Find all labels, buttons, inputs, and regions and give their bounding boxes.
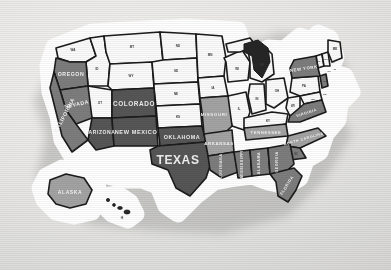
map-image: OREGON NEVADA CALIFORNIA COLORADO ARIZON… [0, 0, 391, 270]
abbr-de: DE [323, 93, 327, 96]
label-texas: TEXAS [156, 153, 199, 167]
label-colorado: COLORADO [113, 100, 155, 107]
label-arkansas: ARKANSAS [204, 141, 234, 146]
label-georgia: GEORGIA [275, 151, 279, 172]
sticker-body: OREGON NEVADA CALIFORNIA COLORADO ARIZON… [40, 27, 352, 220]
label-oregon: OREGON [58, 71, 85, 77]
label-louisiana: LOUISIANA [219, 153, 223, 178]
label-oklahoma: OKLAHOMA [164, 134, 201, 140]
abbr-il: IL [238, 107, 241, 111]
abbr-me: ME [333, 47, 338, 51]
abbr-ks: KS [176, 115, 180, 119]
abbr-wy: WY [129, 74, 134, 78]
abbr-vt: VT [317, 60, 321, 63]
abbr-ct: CT [327, 70, 331, 73]
us-map-sticker: OREGON NEVADA CALIFORNIA COLORADO ARIZON… [0, 0, 391, 270]
abbr-oh: OH [275, 89, 280, 93]
state-maine [328, 40, 342, 62]
label-missouri: MISSOURI [201, 112, 228, 117]
abbr-wv: WV [291, 104, 295, 108]
abbr-ma: MA [331, 61, 335, 64]
abbr-in: IN [256, 97, 259, 101]
label-new-mexico: NEW MEXICO [115, 129, 158, 135]
abbr-mt: MT [130, 45, 134, 49]
label-alabama: ALABAMA [257, 152, 261, 174]
label-mississippi: MISSISSIPPI [240, 150, 244, 178]
abbr-sc: SC [294, 152, 298, 156]
label-arizona: ARIZONA [89, 129, 116, 135]
abbr-ky: KY [266, 119, 270, 123]
abbr-ut: UT [98, 101, 102, 105]
abbr-mi: MI [260, 63, 263, 67]
abbr-md: MD [311, 98, 315, 101]
abbr-ri: RI [334, 68, 337, 71]
abbr-wi: WI [235, 67, 239, 71]
abbr-wa: WA [71, 48, 77, 52]
abbr-mn: MN [208, 53, 213, 57]
label-alaska: ALASKA [58, 189, 82, 195]
abbr-hi: HI [121, 216, 124, 220]
abbr-ne: NE [174, 92, 178, 96]
label-tennessee: TENNESSEE [251, 130, 282, 135]
abbr-nh: NH [324, 58, 328, 61]
